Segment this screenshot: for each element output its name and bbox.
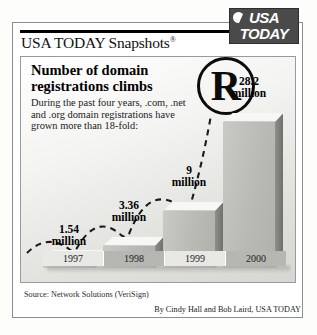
year-cell: 1999 [165, 251, 226, 266]
bar-value-label-line: 28.2 [219, 75, 279, 87]
bar-value-label-line: 9 [159, 164, 219, 176]
year-cell: 1998 [104, 251, 165, 266]
year-cell: 2000 [226, 251, 286, 266]
chart-panel: Number of domain registrations climbs Du… [20, 56, 296, 283]
band-shadow [47, 266, 290, 273]
bar-value-label-line: million [219, 87, 279, 99]
chart-headline: Number of domain registrations climbs [31, 63, 206, 94]
bar-value-label-line: 1.54 [39, 223, 99, 235]
bar-value-label-2000: 28.2million [219, 75, 279, 99]
logo-line-today: TODAY [230, 26, 298, 42]
bar-value-label-line: million [159, 176, 219, 188]
logo-line-usa: USA [230, 10, 298, 26]
masthead-title: USA TODAY Snapshots® [21, 34, 241, 54]
snapshot-infographic: USA TODAY Snapshots® USA TODAY Number of… [0, 0, 317, 335]
bar-side-face [275, 113, 283, 268]
masthead-title-text: USA TODAY Snapshots [21, 34, 170, 51]
bar-value-label-1997: 1.54million [39, 223, 99, 247]
usa-today-logo: USA TODAY [229, 8, 299, 44]
bar-front-face [223, 122, 275, 268]
bar-value-label-line: 3.36 [99, 199, 159, 211]
bar-value-label-line: million [39, 235, 99, 247]
bar-2000 [223, 122, 275, 268]
bar-value-label-1999: 9million [159, 164, 219, 188]
bar-value-label-line: million [99, 211, 159, 223]
year-cell: 1997 [43, 251, 104, 266]
chart-description: During the past four years, .com, .net a… [31, 97, 194, 132]
source-line: Source: Network Solutions (VeriSign) [24, 290, 149, 299]
credit-line: By Cindy Hall and Bob Laird, USA TODAY [154, 305, 301, 314]
registered-trademark-icon: ® [170, 35, 176, 44]
bar-value-label-1998: 3.36million [99, 199, 159, 223]
year-axis: 1997 1998 1999 2000 [43, 251, 286, 266]
